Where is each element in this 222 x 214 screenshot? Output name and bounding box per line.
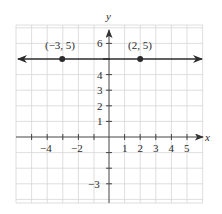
x-tick-label: −2 [71, 142, 83, 154]
y-tick-label: 1 [97, 115, 103, 127]
x-axis-label: x [204, 131, 210, 143]
x-tick-label: 1 [122, 142, 128, 154]
y-axis-label: y [105, 10, 111, 22]
y-tick-label: 3 [97, 84, 103, 96]
y-tick-label: 2 [97, 100, 103, 112]
x-tick-label: −4 [40, 142, 52, 154]
point-2-5 [137, 56, 143, 62]
x-tick-label: 2 [138, 142, 144, 154]
y-tick-label: 6 [97, 37, 103, 49]
y-tick-label: 4 [97, 69, 103, 81]
point-label-a: (−3, 5) [45, 39, 75, 52]
x-tick-label: 4 [169, 142, 175, 154]
point-neg3-5 [59, 56, 65, 62]
axes [16, 30, 203, 203]
point-label-b: (2, 5) [128, 39, 152, 52]
x-tick-label: 5 [184, 142, 190, 154]
y-tick-label: −3 [88, 178, 100, 190]
coordinate-plane: (−3, 5) (2, 5) y x −4 −2 1 2 3 4 5 6 4 3… [0, 0, 222, 214]
x-tick-label: 3 [153, 142, 159, 154]
